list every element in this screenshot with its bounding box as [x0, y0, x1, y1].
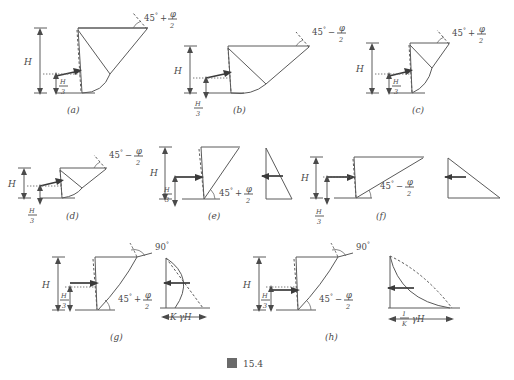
- panel-g-vertex-degree: °: [166, 240, 169, 247]
- panel-e: H H 3 45 ° + φ 2 (e): [149, 147, 292, 221]
- panel-a-phi: φ: [170, 9, 176, 19]
- panel-f-angle-sign: −: [396, 181, 403, 191]
- panel-a-H-label: H: [23, 57, 32, 67]
- panel-c-H3-den: 3: [394, 88, 398, 96]
- panel-d-letter: (d): [66, 211, 79, 221]
- panel-c-letter: (c): [412, 105, 425, 115]
- panel-h-pressure-gammaH: γH: [412, 314, 425, 324]
- panel-c: H H 3 45 ° + φ 2 (c): [355, 24, 486, 115]
- panel-d-H-label: H: [7, 179, 16, 189]
- panel-a-angle-sign: +: [160, 13, 167, 23]
- figure-15-4-svg: H H 3 45 ° + φ 2 (a) H H 3: [0, 0, 514, 380]
- figure-container: H H 3 45 ° + φ 2 (a) H H 3: [0, 0, 514, 380]
- panel-h-angle-degree: °: [330, 292, 333, 299]
- panel-b-phi: φ: [339, 23, 345, 33]
- panel-h-angle-sign: −: [335, 294, 342, 304]
- panel-g-pressure-diagram: K γH: [160, 258, 210, 322]
- panel-b-angle-degree: °: [323, 25, 326, 32]
- panel-g-angle-45: 45: [118, 294, 129, 304]
- panel-h-H3-den: 3: [263, 302, 267, 310]
- panel-d-H3-den: 3: [30, 217, 34, 225]
- panel-b-H-label: H: [173, 66, 182, 76]
- panel-e-pressure-diagram: [261, 148, 292, 199]
- panel-f-letter: (f): [376, 211, 387, 221]
- panel-c-angle-sign: +: [468, 28, 475, 38]
- panel-g-H3-num: H: [60, 292, 67, 300]
- panel-h-H-label: H: [242, 280, 251, 290]
- panel-e-angle-45: 45: [219, 188, 230, 198]
- panel-e-letter: (e): [208, 211, 221, 221]
- panel-e-H-label: H: [149, 168, 158, 178]
- panel-b: H H 3 45 ° − φ 2 (b): [173, 23, 346, 118]
- panel-f-pressure-diagram: [444, 158, 500, 198]
- panel-g-H3-den: 3: [62, 302, 66, 310]
- panel-b-H3-den: 3: [196, 110, 200, 118]
- panel-c-angle-45: 45: [452, 28, 463, 38]
- panel-g-H-label: H: [41, 280, 50, 290]
- panel-f-angle-degree: °: [391, 179, 394, 186]
- panel-h-vertex-degree: °: [367, 240, 370, 247]
- panel-d-phi: φ: [136, 146, 142, 156]
- panel-b-angle-sign: −: [328, 27, 335, 37]
- panel-a-phi-den: 2: [169, 22, 174, 30]
- panel-g-angle-sign: +: [134, 294, 141, 304]
- panel-h-vertex-angle: 90: [356, 242, 367, 252]
- panel-h-phi: φ: [346, 290, 352, 300]
- panel-e-H3-den: 3: [165, 196, 169, 204]
- panel-g-phi: φ: [145, 290, 151, 300]
- panel-a-H3-num: H: [59, 78, 66, 86]
- panel-f-H3-den: 3: [317, 218, 321, 226]
- panel-h-pressure-num: 1: [402, 310, 406, 318]
- panel-c-phi-den: 2: [478, 37, 483, 45]
- panel-a: H H 3 45 ° + φ 2 (a): [23, 9, 177, 115]
- panel-b-phi-den: 2: [338, 36, 343, 44]
- panel-g-letter: (g): [110, 332, 123, 342]
- figure-caption-number: 15.4: [243, 359, 263, 369]
- panel-h-phi-den: 2: [345, 303, 350, 311]
- panel-a-angle-45: 45: [144, 13, 155, 23]
- panel-d-phi-den: 2: [135, 159, 140, 167]
- panel-f: H H 3 45 ° − φ 2 (f): [300, 157, 500, 226]
- panel-f-H3-num: H: [315, 208, 322, 216]
- panel-a-H3-den: 3: [61, 88, 65, 96]
- panel-b-letter: (b): [233, 105, 246, 115]
- panel-d-H3-num: H: [28, 207, 35, 215]
- panel-h-pressure-den: K: [401, 320, 408, 328]
- panel-h-angle-45: 45: [319, 294, 330, 304]
- panel-g-angle-degree: °: [129, 292, 132, 299]
- panel-d-angle-45: 45: [109, 150, 120, 160]
- panel-c-angle-degree: °: [463, 26, 466, 33]
- panel-g-vertex-angle: 90: [155, 242, 166, 252]
- panel-d: H H 3 45 ° − φ 2 (d): [7, 146, 143, 225]
- panel-f-phi-den: 2: [406, 190, 411, 198]
- panel-h-letter: (h): [325, 332, 338, 342]
- panel-e-angle-sign: +: [235, 188, 242, 198]
- panel-b-H3-num: H: [194, 100, 201, 108]
- panel-f-phi: φ: [407, 177, 413, 187]
- panel-a-letter: (a): [67, 105, 80, 115]
- panel-c-H3-num: H: [392, 78, 399, 86]
- panel-h: H H 3 90 ° 45 ° − φ 2 1 K γH (h): [242, 240, 460, 342]
- panel-e-phi: φ: [246, 184, 252, 194]
- panel-a-angle-degree: °: [155, 11, 158, 18]
- panel-e-H3-num: H: [163, 186, 170, 194]
- panel-g-pressure-K: K: [169, 312, 177, 322]
- panel-f-H-label: H: [300, 173, 309, 183]
- panel-f-angle-45: 45: [380, 181, 391, 191]
- panel-g-pressure-gammaH: γH: [179, 312, 192, 322]
- figure-caption: 15.4: [227, 358, 263, 369]
- panel-d-angle-sign: −: [125, 150, 132, 160]
- panel-g-phi-den: 2: [144, 303, 149, 311]
- panel-h-H3-num: H: [261, 292, 268, 300]
- panel-c-H-label: H: [355, 64, 364, 74]
- panel-c-phi: φ: [479, 24, 485, 34]
- panel-g: H H 3 90 ° 45 ° + φ 2 K γH (g): [41, 240, 210, 342]
- panel-e-angle-degree: °: [230, 186, 233, 193]
- panel-b-angle-45: 45: [312, 27, 323, 37]
- panel-e-phi-den: 2: [245, 197, 250, 205]
- panel-d-angle-degree: °: [120, 148, 123, 155]
- panel-h-pressure-diagram: 1 K γH: [387, 256, 460, 328]
